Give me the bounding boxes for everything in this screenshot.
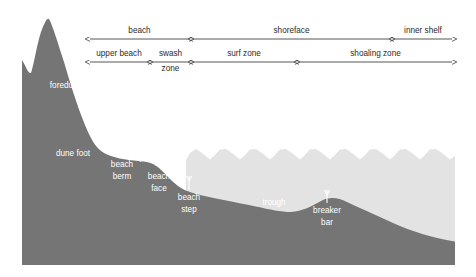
zone-label-swash-zone-line1: swash: [159, 49, 183, 58]
feature-label-foredune: foredune: [50, 81, 83, 90]
coastal-profile-figure: beach shoreface inner shelf upper beach …: [0, 0, 476, 277]
zone-label-shoreface: shoreface: [274, 26, 310, 35]
feature-label-beach-face-line2: face: [151, 184, 167, 193]
feature-label-trough: trough: [262, 198, 286, 207]
zone-label-surf-zone: surf zone: [227, 49, 261, 58]
feature-label-breaker-bar-line1: breaker: [313, 206, 341, 215]
leader-dune-foot: [93, 131, 101, 140]
diagram-canvas: beach shoreface inner shelf upper beach …: [0, 0, 476, 277]
feature-label-beach-step-line2: step: [181, 205, 197, 214]
zone-label-shoaling-zone: shoaling zone: [350, 49, 401, 58]
zone-label-upper-beach: upper beach: [96, 49, 142, 58]
feature-label-breaker-bar-line2: bar: [321, 218, 333, 227]
zone-label-swash-zone-line2: zone: [162, 64, 180, 73]
leader-beach-face: [164, 161, 172, 168]
zone-label-beach: beach: [128, 26, 151, 35]
feature-label-dune-foot: dune foot: [56, 149, 91, 158]
feature-label-beach-berm-line1: beach: [111, 160, 134, 169]
zone-label-inner-shelf: inner shelf: [404, 26, 443, 35]
feature-label-beach-face-line1: beach: [148, 172, 171, 181]
zone-bar-bottom-row: upper beach swash zone surf zone shoalin…: [90, 49, 452, 73]
zone-bar-top-row: beach shoreface inner shelf: [90, 26, 452, 39]
feature-label-beach-berm-line2: berm: [113, 172, 132, 181]
feature-label-beach-step-line1: beach: [178, 193, 201, 202]
